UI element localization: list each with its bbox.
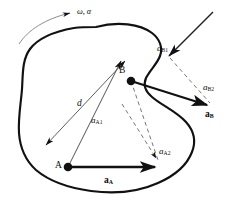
rigid-body-diagram-svg [0, 0, 243, 209]
label-a-a2-sub: A2 [164, 150, 171, 156]
point-a-marker [64, 163, 73, 172]
label-a-a1-sub: A1 [96, 119, 103, 125]
figure-container: ω, α aB1 aB2 aB B d aA1 aA2 A aA [0, 0, 243, 209]
label-a-a2: aA2 [159, 147, 171, 157]
vector-a-a2 [122, 81, 158, 160]
label-a-a-sub: A [109, 179, 113, 185]
label-a-b-sub: B [210, 113, 214, 119]
label-a-a: aA [104, 176, 113, 186]
vector-a-a1 [68, 61, 121, 167]
label-point-a: A [55, 161, 62, 171]
label-a-b2-sub: B2 [208, 86, 215, 92]
label-a-b2: aB2 [203, 83, 214, 93]
point-b-marker [127, 77, 136, 86]
vector-a-b1 [169, 12, 213, 56]
label-a-b: aB [205, 110, 214, 120]
vector-a-b [131, 81, 207, 105]
angular-velocity-arc [19, 13, 70, 44]
label-distance-d: d [77, 99, 82, 109]
label-omega-alpha: ω, α [77, 8, 91, 16]
label-point-b: B [119, 66, 125, 76]
label-a-b1-sub: B1 [162, 47, 169, 53]
label-a-b1: aB1 [157, 44, 168, 54]
label-a-a1: aA1 [91, 116, 103, 126]
